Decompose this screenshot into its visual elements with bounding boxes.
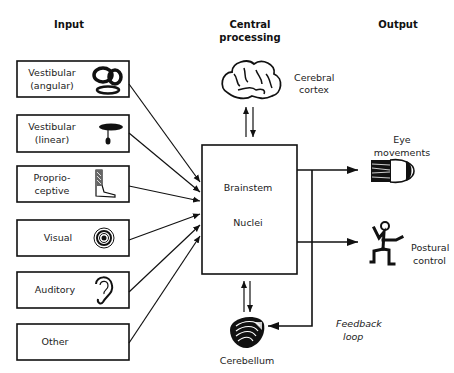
vestibular-system-diagram: Input Central processing Output Vestibul… [0, 0, 454, 373]
input-box-auditory: Auditory [17, 272, 129, 308]
output-label-line1: Eye [393, 134, 411, 145]
header-output: Output [378, 19, 418, 30]
eye-target-icon [94, 228, 114, 248]
header-central-line2: processing [219, 32, 280, 43]
cerebellum-brainstem-arrows [244, 281, 250, 312]
input-label-line1: Vestibular [28, 121, 75, 132]
output-label-line2: movements [374, 147, 430, 158]
input-box-proprioceptive: Proprio- ceptive [17, 166, 129, 202]
input-label-line1: Proprio- [33, 172, 70, 183]
feedback-label-line2: loop [343, 331, 363, 342]
cortex-label-line2: cortex [299, 84, 329, 95]
input-label: Auditory [35, 284, 76, 295]
input-box-visual: Visual [17, 220, 129, 256]
input-box-vestibular-angular: Vestibular (angular) [17, 61, 129, 97]
input-label-line2: (angular) [30, 80, 74, 91]
cortex-brainstem-arrows [246, 107, 253, 137]
cerebellum-icon [230, 317, 264, 348]
input-box-vestibular-linear: Vestibular (linear) [17, 115, 129, 152]
nuclei-label: Nuclei [233, 217, 262, 228]
output-eye-movements: Eye movements [371, 134, 430, 182]
input-arrows [129, 84, 200, 343]
header-central-line1: Central [229, 19, 270, 30]
output-arrows [297, 170, 358, 242]
brain-icon [222, 61, 280, 98]
output-postural-control: Postural control [371, 222, 449, 266]
stick-figure-icon [371, 222, 402, 264]
cerebellum: Cerebellum [220, 317, 274, 366]
input-box-other: Other [17, 324, 129, 360]
input-label: Other [42, 336, 69, 347]
brainstem-label: Brainstem [224, 182, 273, 193]
output-label-line2: control [413, 255, 446, 266]
cerebellum-label: Cerebellum [220, 355, 274, 366]
input-label-line2: (linear) [35, 134, 69, 145]
brainstem-nuclei-box: Brainstem Nuclei [202, 145, 297, 274]
cerebral-cortex: Cerebral cortex [222, 61, 334, 98]
header-input: Input [54, 19, 84, 30]
eyeball-muscle-icon [371, 160, 414, 183]
input-label-line1: Vestibular [28, 67, 75, 78]
feedback-label-line1: Feedback [336, 318, 382, 329]
cortex-label-line1: Cerebral [294, 72, 334, 83]
output-label-line1: Postural [411, 242, 449, 253]
input-label-line2: ceptive [35, 185, 70, 196]
input-label: Visual [44, 232, 72, 243]
